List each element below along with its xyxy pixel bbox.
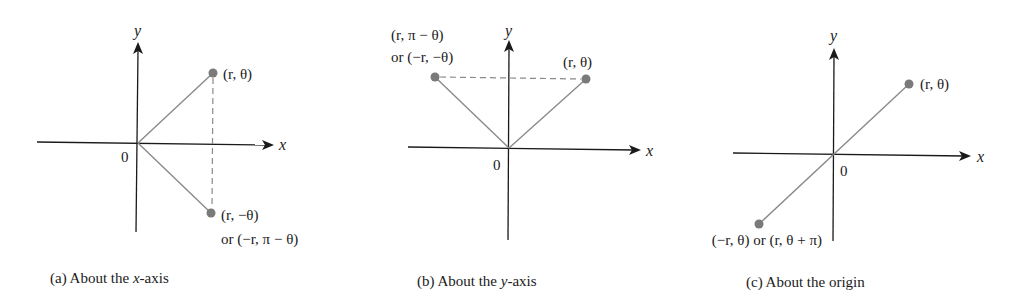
panel-a-point-r-neg-theta [207,209,216,218]
panel-a-point2-label: (r, −θ) [221,207,259,224]
panel-c-point1-label: (r, θ) [920,76,949,93]
panel-b-point-r-theta [582,75,591,84]
polar-symmetry-figure: y x 0 (r, θ) (r, −θ) or (−r, π − θ) (a) … [0,0,1032,298]
panel-c-point-r-theta [905,80,914,89]
panel-b-ray-right [509,79,586,148]
panel-b-point2-alt-label: or (−r, −θ) [391,49,453,66]
panel-a-ray-upper [138,73,213,143]
panel-b-point-r-pi-minus-theta [431,73,440,82]
panel-c-caption: (c) About the origin [746,274,865,291]
panel-c-point2-label: (−r, θ) or (r, θ + π) [712,232,822,249]
panel-c-x-axis [733,153,965,156]
panel-b-x-axis [408,147,635,150]
panel-a-ray-lower [138,143,211,213]
panel-b-dashed-connector [440,77,581,79]
panel-a-point-r-theta [209,69,218,78]
panel-a-x-label: x [278,136,286,153]
panel-c-origin-symmetry: y x 0 (r, θ) (−r, θ) or (r, θ + π) (c) A… [712,27,984,291]
panel-b-caption: (b) About the y-axis [417,273,537,290]
panel-a-point2-alt-label: or (−r, π − θ) [221,231,298,248]
panel-b-y-axis-symmetry: y x 0 (r, θ) (r, π − θ) or (−r, −θ) (b) … [391,22,653,290]
panel-b-point2-label: (r, π − θ) [391,27,444,44]
panel-a-point1-label: (r, θ) [223,66,252,83]
panel-a-y-axis [136,50,138,232]
panel-b-point1-label: (r, θ) [563,54,592,71]
panel-a-dashed-connector [212,78,213,208]
panel-a-x-axis [37,142,268,145]
panel-a-x-axis-symmetry: y x 0 (r, θ) (r, −θ) or (−r, π − θ) (a) … [37,22,298,287]
panel-b-origin-label: 0 [493,157,501,173]
panel-c-y-label: y [828,27,838,45]
panel-a-origin-label: 0 [121,149,129,165]
panel-c-point-neg-r-theta [755,220,764,229]
panel-a-y-label: y [132,22,142,40]
panel-b-ray-left [435,77,509,148]
panel-b-y-label: y [503,22,513,40]
panel-c-x-label: x [976,148,984,165]
panel-a-caption: (a) About the x-axis [50,270,169,287]
panel-c-y-axis [833,56,834,241]
panel-b-y-axis [508,48,509,240]
panel-c-origin-label: 0 [840,163,848,179]
panel-b-x-label: x [645,142,653,159]
